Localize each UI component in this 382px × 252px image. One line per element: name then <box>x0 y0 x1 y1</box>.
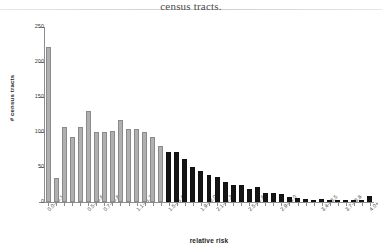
bar-series <box>44 27 374 202</box>
bar <box>215 177 220 202</box>
bar <box>78 127 83 202</box>
histogram-chart: # census tracts relative risk 0501001502… <box>0 15 382 252</box>
bar <box>102 132 107 202</box>
y-axis-tick-label-wrap: 50 <box>0 164 44 170</box>
bar <box>255 187 260 202</box>
bar <box>263 193 268 202</box>
bar <box>126 129 131 203</box>
bar <box>118 120 123 202</box>
x-axis-tick <box>120 203 121 206</box>
bar <box>54 178 59 202</box>
y-axis-tick-label: 150 <box>8 94 44 100</box>
bar <box>70 137 75 202</box>
y-axis-tick-label: 100 <box>8 129 44 135</box>
x-axis-tick <box>129 203 130 206</box>
caption-text: census tracts. <box>0 0 382 13</box>
bar <box>86 111 91 202</box>
y-axis-tick-label-wrap: 150 <box>0 94 44 100</box>
x-axis-tick <box>193 203 194 206</box>
bar <box>295 198 300 202</box>
bar <box>327 200 332 202</box>
bar <box>207 175 212 202</box>
x-axis-tick <box>241 203 242 206</box>
page-caption-band: census tracts. <box>0 0 382 15</box>
bar <box>343 200 348 202</box>
x-axis-tick <box>233 203 234 206</box>
bar <box>198 171 203 203</box>
bar <box>142 132 147 202</box>
bar <box>46 47 51 202</box>
bar <box>182 159 187 202</box>
y-axis-tick-label-wrap: 200 <box>0 59 44 65</box>
y-axis-tick-label: 200 <box>8 59 44 65</box>
bar <box>311 200 316 202</box>
x-axis-tick <box>338 203 339 206</box>
x-axis-line <box>44 202 374 203</box>
y-axis-tick-label-wrap: 0 <box>0 199 44 205</box>
bar <box>271 193 276 202</box>
y-axis-tick-label: 250 <box>8 24 44 30</box>
bar <box>223 182 228 202</box>
x-axis-tick <box>185 203 186 206</box>
bar <box>287 197 292 202</box>
bar <box>110 131 115 202</box>
x-axis-tick <box>265 203 266 206</box>
plot-area <box>44 27 374 202</box>
bar <box>367 196 372 202</box>
bar <box>134 129 139 203</box>
y-axis-tick-label-wrap: 100 <box>0 129 44 135</box>
bar <box>62 127 67 202</box>
x-axis-tick <box>314 203 315 206</box>
x-axis-tick <box>153 203 154 206</box>
bar <box>319 199 324 202</box>
bar <box>359 200 364 202</box>
y-axis-tick-label: 0 <box>8 199 44 205</box>
x-axis-title: relative risk <box>44 237 374 244</box>
bar <box>335 200 340 202</box>
y-axis-tick-label-wrap: 250 <box>0 24 44 30</box>
y-axis-tick-label: 50 <box>8 164 44 170</box>
x-axis-tick <box>306 203 307 206</box>
bar <box>239 185 244 202</box>
bar <box>231 185 236 202</box>
bar <box>247 189 252 202</box>
x-axis-tick <box>64 203 65 206</box>
bar <box>150 137 155 202</box>
x-axis-tick <box>161 203 162 206</box>
bar <box>94 132 99 202</box>
bar <box>303 199 308 202</box>
bar <box>166 152 171 202</box>
bar <box>174 152 179 202</box>
x-axis-tick <box>273 203 274 206</box>
x-axis-tick <box>72 203 73 206</box>
x-axis-tick <box>362 203 363 206</box>
bar <box>351 200 356 202</box>
x-axis-tick <box>298 203 299 206</box>
bar <box>279 194 284 202</box>
bar <box>190 167 195 202</box>
x-axis-tick <box>80 203 81 206</box>
bar <box>158 146 163 202</box>
